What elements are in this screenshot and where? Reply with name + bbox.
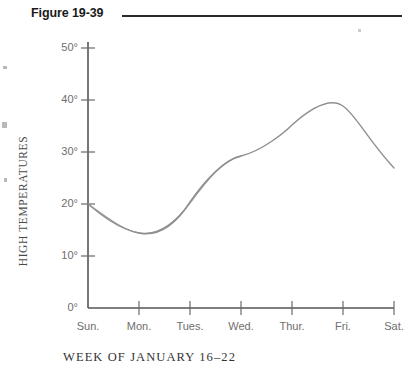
figure-page: Figure 19-39: [0, 0, 417, 378]
temperature-curve-main: [88, 103, 394, 234]
y-tick-label-40: 40°: [44, 93, 78, 105]
y-tick-label-50: 50°: [44, 41, 78, 53]
y-tick-label-10: 10°: [44, 249, 78, 261]
x-axis-title: WEEK OF JANUARY 16–22: [63, 350, 236, 365]
y-tick-label-20: 20°: [44, 197, 78, 209]
y-axis-title: HIGH TEMPERATURES: [17, 116, 29, 286]
y-tick-label-0: 0°: [44, 301, 78, 313]
x-tick-label-sat: Sat.: [364, 320, 417, 332]
y-tick-label-30: 30°: [44, 145, 78, 157]
